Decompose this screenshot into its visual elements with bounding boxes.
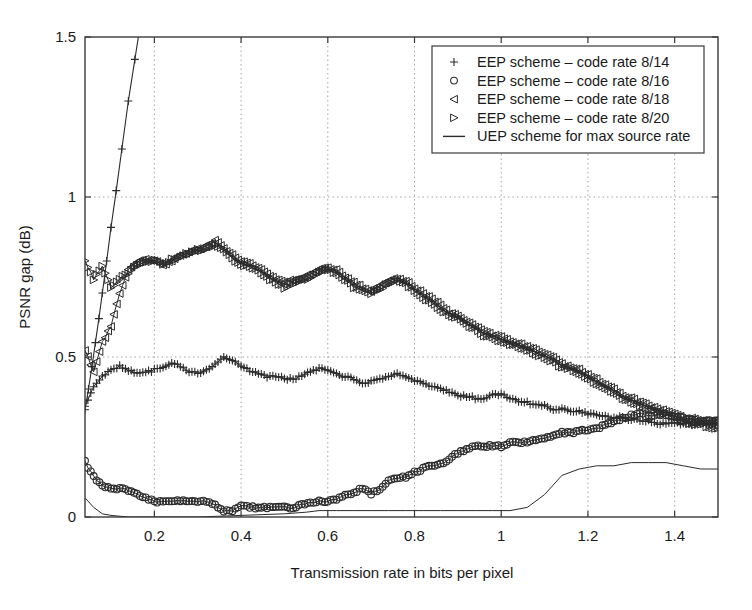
x-tick-label: 0.8 bbox=[404, 527, 425, 544]
x-tick-label: 1 bbox=[497, 527, 505, 544]
series-3 bbox=[82, 242, 722, 433]
series-1 bbox=[82, 410, 722, 515]
x-tick-label: 0.4 bbox=[231, 527, 252, 544]
x-axis-title: Transmission rate in bits per pixel bbox=[291, 564, 514, 581]
legend-item-label: EEP scheme – code rate 8/16 bbox=[477, 73, 669, 89]
x-tick-label: 0.6 bbox=[317, 527, 338, 544]
psnr-gap-plot: 0.20.40.60.811.21.400.511.5 EEP scheme –… bbox=[0, 0, 752, 610]
y-tick-label: 1.5 bbox=[55, 28, 76, 45]
x-tick-label: 1.4 bbox=[664, 527, 685, 544]
legend-item-label: EEP scheme – code rate 8/14 bbox=[477, 54, 669, 70]
y-axis-title: PSNR gap (dB) bbox=[16, 225, 33, 328]
y-tick-label: 0.5 bbox=[55, 348, 76, 365]
x-tick-label: 0.2 bbox=[144, 527, 165, 544]
chart-legend: EEP scheme – code rate 8/14EEP scheme – … bbox=[432, 46, 704, 153]
chart-figure: 0.20.40.60.811.21.400.511.5 EEP scheme –… bbox=[0, 0, 752, 610]
legend-item-label: UEP scheme for max source rate bbox=[477, 128, 690, 144]
legend-item-label: EEP scheme – code rate 8/18 bbox=[477, 91, 669, 107]
legend-item-label: EEP scheme – code rate 8/20 bbox=[477, 110, 669, 126]
y-tick-label: 0 bbox=[68, 508, 76, 525]
y-tick-label: 1 bbox=[68, 188, 76, 205]
series-4 bbox=[85, 463, 718, 517]
x-tick-label: 1.2 bbox=[578, 527, 599, 544]
